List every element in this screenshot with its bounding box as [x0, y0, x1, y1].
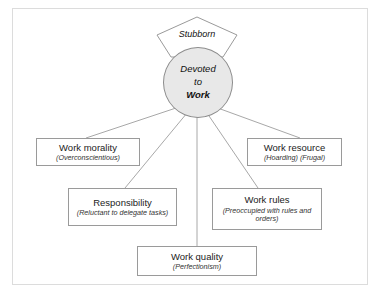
core-line-2: to [194, 76, 202, 89]
node-title: Work rules [244, 194, 289, 205]
connector-work-resource [215, 107, 300, 138]
node-responsibility: Responsibility (Reluctant to delegate ta… [68, 188, 177, 226]
node-title: Work morality [59, 142, 117, 153]
connector-work-morality [86, 107, 179, 138]
node-work-resource: Work resource (Hoarding) (Frugal) [247, 138, 342, 166]
core-line-1: Devoted [180, 63, 215, 76]
node-title: Responsibility [93, 197, 152, 208]
node-subtitle: (Hoarding) (Frugal) [261, 154, 328, 162]
node-subtitle: (Perfectionism) [170, 263, 224, 271]
node-subtitle: (Overconscientious) [53, 154, 123, 162]
diagram-canvas: Stubborn Devoted to Work Work morality (… [0, 0, 384, 300]
core-node-devoted-to-work: Devoted to Work [163, 47, 233, 118]
node-subtitle: (Reluctant to delegate tasks) [74, 209, 172, 217]
core-line-3: Work [186, 89, 210, 102]
node-title: Work resource [264, 142, 326, 153]
node-work-rules: Work rules (Preoccupied with rules and o… [212, 188, 322, 230]
node-work-morality: Work morality (Overconscientious) [36, 138, 140, 166]
node-work-quality: Work quality (Perfectionism) [137, 246, 257, 276]
node-subtitle: (Preoccupied with rules and orders) [213, 207, 321, 224]
stubborn-label: Stubborn [155, 29, 239, 39]
node-title: Work quality [171, 251, 223, 262]
